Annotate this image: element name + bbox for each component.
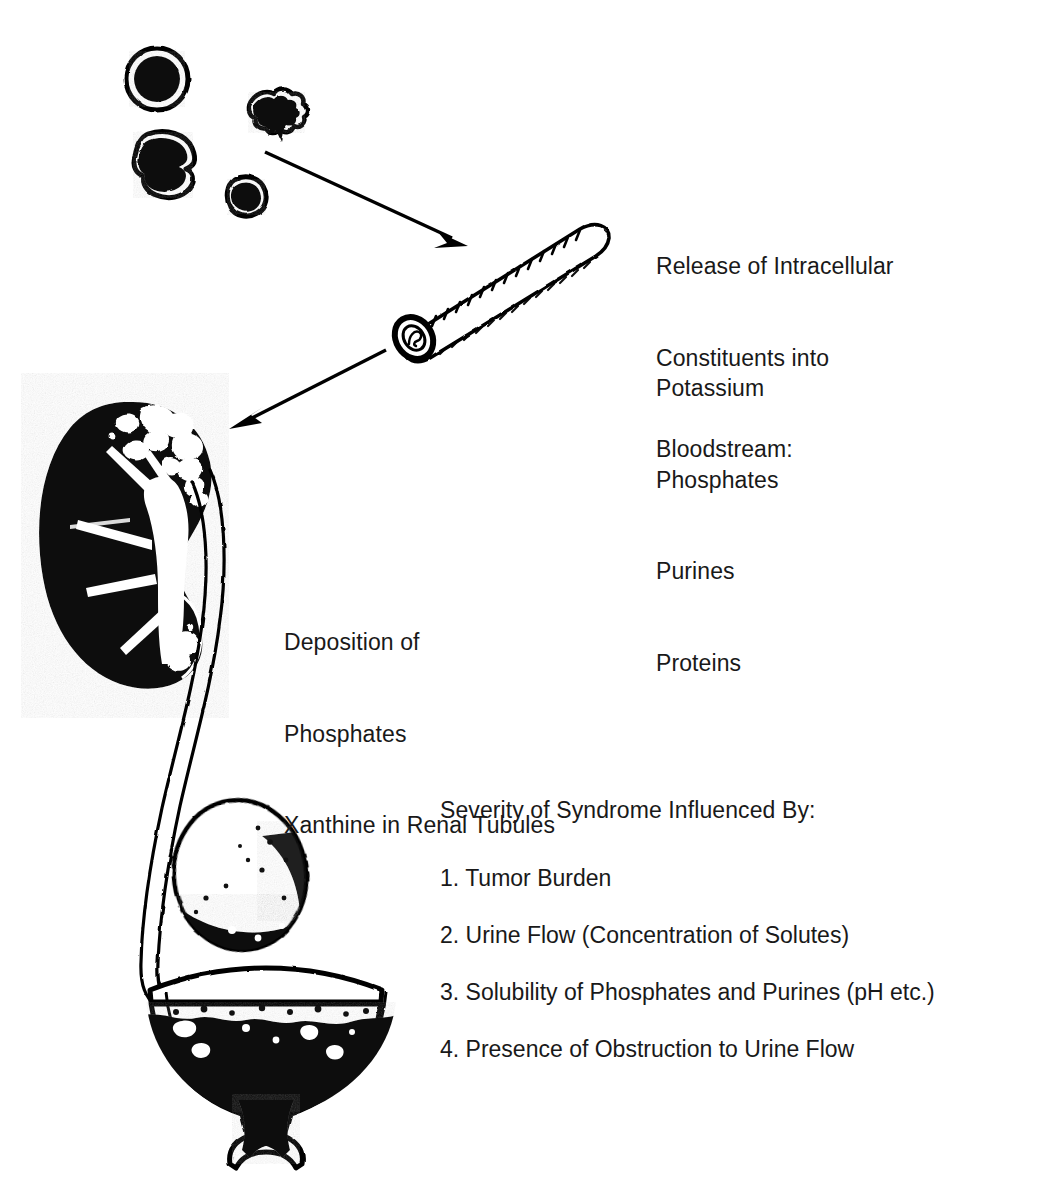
deposition-line-1: Deposition of	[284, 627, 555, 658]
bladder	[140, 968, 400, 1168]
blood-vessel	[387, 225, 609, 367]
severity-item-1: 1. Tumor Burden	[440, 863, 611, 893]
deposition-label: Deposition of Phosphates Xanthine in Ren…	[284, 566, 555, 871]
cells-to-vessel-arrow	[265, 152, 468, 248]
tumor-cell-ragged-left	[134, 132, 195, 198]
tumor-cell-small	[227, 177, 266, 216]
severity-heading: Severity of Syndrome Influenced By:	[440, 795, 816, 825]
deposition-line-2: Phosphates	[284, 719, 555, 750]
severity-item-2: 2. Urine Flow (Concentration of Solutes)	[440, 920, 849, 950]
vessel-to-kidney-arrow	[229, 350, 386, 429]
constituent-item-potassium: Potassium	[656, 373, 778, 404]
constituent-item-proteins: Proteins	[656, 648, 778, 679]
release-heading-line-1: Release of Intracellular	[656, 251, 894, 282]
tumor-cell-cluster	[126, 48, 308, 216]
constituent-list: Potassium Phosphates Purines Proteins	[656, 312, 778, 709]
constituent-item-purines: Purines	[656, 556, 778, 587]
kidney	[39, 402, 211, 689]
constituent-item-phosphates: Phosphates	[656, 465, 778, 496]
tumor-cell-spiky	[249, 90, 308, 142]
severity-item-3: 3. Solubility of Phosphates and Purines …	[440, 977, 935, 1007]
tumor-cell-round	[126, 48, 188, 110]
severity-item-4: 4. Presence of Obstruction to Urine Flow	[440, 1034, 854, 1064]
